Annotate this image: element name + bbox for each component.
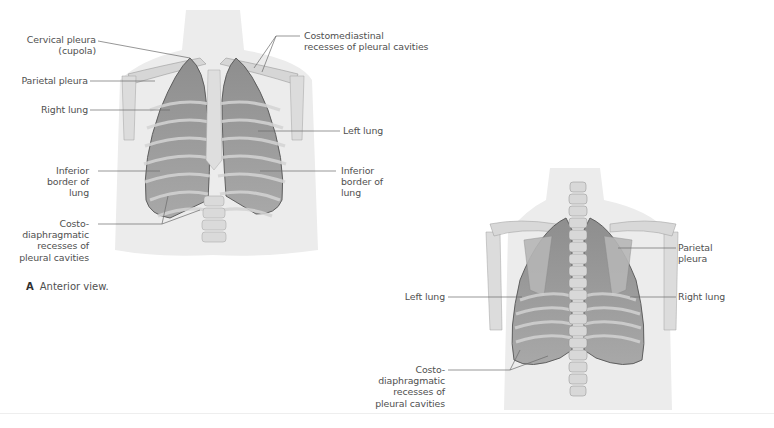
panel-a-caption-text: Anterior view. — [40, 281, 109, 292]
label-inferior-border-left: Inferior border of lung — [341, 165, 383, 199]
bottom-divider — [0, 413, 774, 414]
label-left-lung-posterior: Left lung — [340, 291, 445, 302]
panel-a-letter: A — [26, 281, 34, 292]
label-left-lung-anterior: Left lung — [343, 125, 383, 136]
panel-a-caption: AAnterior view. — [26, 281, 109, 292]
label-right-lung-posterior: Right lung — [678, 291, 725, 302]
label-parietal-pleura-anterior: Parietal pleura — [0, 75, 88, 86]
posterior-view-figure — [486, 168, 678, 410]
label-right-lung-anterior: Right lung — [0, 104, 88, 115]
label-costodiaphragmatic-posterior: Costo- diaphragmatic recesses of pleural… — [340, 364, 445, 409]
label-costomediastinal: Costomediastinal recesses of pleural cav… — [304, 30, 428, 52]
label-costodiaphragmatic-anterior: Costo- diaphragmatic recesses of pleural… — [0, 218, 89, 263]
label-inferior-border-right: Inferior border of lung — [0, 165, 89, 199]
label-parietal-pleura-posterior: Parietal pleura — [678, 242, 712, 264]
anterior-view-figure — [115, 10, 318, 256]
label-cervical-pleura: Cervical pleura (cupola) — [0, 34, 96, 56]
